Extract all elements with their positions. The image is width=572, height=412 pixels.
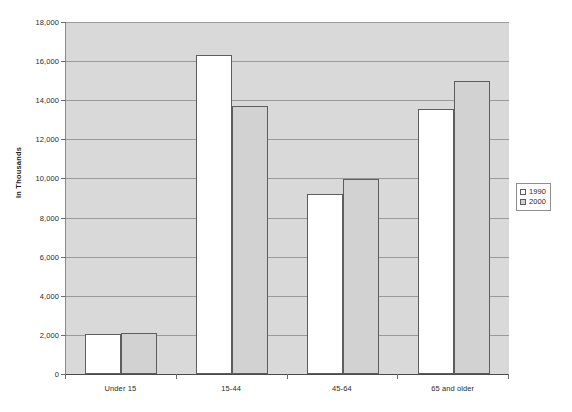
y-axis-tick — [61, 178, 66, 179]
y-axis-label: 2,000 — [40, 330, 59, 339]
bar-chart: · · In Thousands 02,0004,0006,0008,00010… — [0, 0, 572, 412]
bar-2000-65-and-older — [454, 81, 490, 374]
y-axis-label: 0 — [55, 370, 59, 379]
legend-swatch-2000 — [520, 199, 526, 205]
y-axis-label: 10,000 — [35, 174, 59, 183]
y-axis-label: 16,000 — [35, 57, 59, 66]
y-axis-label: 8,000 — [40, 213, 59, 222]
y-axis-label: 14,000 — [35, 96, 59, 105]
legend-label-2000: 2000 — [529, 197, 546, 207]
x-axis-tick — [287, 374, 288, 379]
gridline — [66, 61, 509, 62]
x-axis-tick — [397, 374, 398, 379]
y-axis-tick — [61, 100, 66, 101]
y-axis-label: 4,000 — [40, 291, 59, 300]
y-axis-label: 6,000 — [40, 252, 59, 261]
x-axis-tick — [65, 374, 66, 379]
y-axis-label: 12,000 — [35, 135, 59, 144]
y-axis-tick — [61, 296, 66, 297]
x-axis-tick — [508, 374, 509, 379]
bar-1990-under-15 — [85, 334, 121, 374]
y-axis-tick — [61, 61, 66, 62]
x-axis-label: 15-44 — [221, 384, 241, 393]
legend-label-1990: 1990 — [529, 187, 546, 197]
legend-swatch-1990 — [520, 189, 526, 195]
y-axis-tick — [61, 22, 66, 23]
y-axis-label: 18,000 — [35, 18, 59, 27]
y-axis-tick — [61, 139, 66, 140]
bar-2000-under-15 — [121, 333, 157, 374]
gridline — [66, 22, 509, 23]
x-axis-label: 45-64 — [332, 384, 352, 393]
legend-item-1990[interactable]: 1990 — [520, 187, 546, 197]
bar-1990-65-and-older — [418, 109, 454, 374]
x-axis-label: 65 and older — [431, 384, 474, 393]
x-axis-tick — [176, 374, 177, 379]
y-axis-tick — [61, 335, 66, 336]
bar-2000-45-64 — [343, 179, 379, 374]
legend-item-2000[interactable]: 2000 — [520, 197, 546, 207]
gridline — [66, 100, 509, 101]
chart-title-remnant: · · — [178, 0, 398, 4]
plot-area — [65, 22, 509, 374]
bar-1990-15-44 — [196, 55, 232, 374]
bar-2000-15-44 — [232, 106, 268, 374]
x-axis-label: Under 15 — [105, 384, 137, 393]
y-axis-tick — [61, 257, 66, 258]
chart-legend: 1990 2000 — [516, 183, 551, 211]
plot-inner — [66, 22, 509, 374]
y-axis-title: In Thousands — [14, 147, 23, 198]
y-axis-tick — [61, 218, 66, 219]
bar-1990-45-64 — [307, 194, 343, 374]
